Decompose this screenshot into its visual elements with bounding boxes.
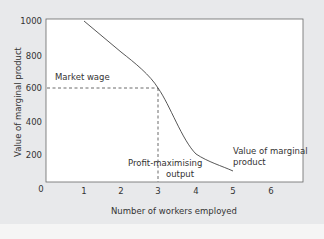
x-tick: 4 xyxy=(193,186,198,196)
y-axis-title: Value of marginal product xyxy=(13,46,23,157)
y-axis: 1000 800 600 400 200 Value of marginal p… xyxy=(13,16,42,160)
vmp-label-2: product xyxy=(233,157,266,167)
y-tick: 800 xyxy=(26,51,42,61)
profit-max-label-2: output xyxy=(166,169,195,179)
profit-max-label-1: Profit-maximising xyxy=(128,158,202,168)
x-axis: 0 1 2 3 4 5 6 Number of workers employed xyxy=(38,184,273,216)
market-wage-label: Market wage xyxy=(55,72,110,82)
y-tick: 1000 xyxy=(20,16,42,26)
x-tick: 1 xyxy=(81,186,86,196)
x-tick: 0 xyxy=(38,184,43,194)
x-tick: 6 xyxy=(268,186,273,196)
y-tick: 600 xyxy=(26,83,42,93)
x-tick: 2 xyxy=(118,186,123,196)
chart: 1000 800 600 400 200 Value of marginal p… xyxy=(0,0,324,239)
vmp-label-1: Value of marginal xyxy=(233,146,308,156)
x-tick: 3 xyxy=(155,186,160,196)
x-tick: 5 xyxy=(230,186,235,196)
y-tick: 200 xyxy=(26,150,42,160)
x-axis-title: Number of workers employed xyxy=(111,206,237,216)
y-tick: 400 xyxy=(26,117,42,127)
